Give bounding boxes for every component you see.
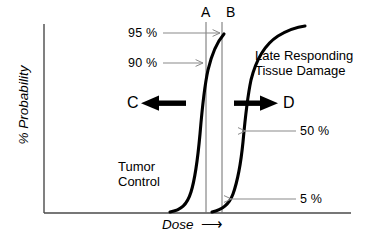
arrow-d-glyph xyxy=(234,96,278,111)
late-responding-caption: Late Responding Tissue Damage xyxy=(255,49,353,78)
tumor-control-caption-line2: Control xyxy=(118,175,160,190)
probability-label-5: 5 % xyxy=(300,192,322,206)
tumor-control-caption-line1: Tumor xyxy=(118,160,160,175)
late-responding-caption-line1: Late Responding xyxy=(255,49,353,64)
x-axis-arrow-icon: ⟶ xyxy=(201,215,223,232)
probability-label-90: 90 % xyxy=(128,56,157,70)
figure-canvas xyxy=(0,0,379,239)
dose-response-figure: % Probability Dose ⟶ 95 % 90 % 50 % 5 % … xyxy=(0,0,379,239)
shift-arrow-label-c: C xyxy=(127,94,139,112)
shift-arrow-label-d: D xyxy=(283,94,295,112)
y-axis-label-wrapper: % Probability xyxy=(14,55,32,155)
arrow-c-glyph xyxy=(141,96,186,111)
late-responding-caption-line2: Tissue Damage xyxy=(255,64,353,79)
dose-line-label-a: A xyxy=(201,5,210,21)
probability-label-50: 50 % xyxy=(300,124,329,138)
x-axis-label: Dose xyxy=(162,217,194,232)
probability-label-95: 95 % xyxy=(128,26,157,40)
dose-line-label-b: B xyxy=(226,5,235,21)
tumor-control-curve xyxy=(170,34,224,212)
x-axis-label-group: Dose ⟶ xyxy=(162,216,223,233)
tumor-control-caption: Tumor Control xyxy=(118,160,160,189)
y-axis-label: % Probability xyxy=(16,66,31,145)
